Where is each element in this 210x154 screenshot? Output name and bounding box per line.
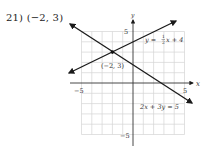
intersection-point: [111, 50, 115, 54]
y-axis-label: y: [130, 11, 135, 19]
y-tick-neg5: −5: [120, 132, 130, 140]
y-tick-pos5: 5: [124, 28, 128, 36]
svg-text:2: 2: [162, 40, 165, 45]
x-axis-label: x: [196, 80, 200, 88]
svg-text:x + 4: x + 4: [166, 36, 183, 44]
x-tick-neg5: −5: [74, 87, 84, 95]
equation-label-2: 2x + 3y = 5: [139, 103, 179, 111]
svg-text:y =: y =: [144, 36, 156, 44]
intersection-label: (−2, 3): [101, 62, 124, 70]
coordinate-graph: x y −5 5 5 −5 (−2, 3) y = 1 2 x + 4 2x +…: [0, 0, 210, 154]
svg-text:1: 1: [162, 34, 165, 39]
x-tick-pos5: 5: [183, 87, 187, 95]
equation-label-1: y = 1 2 x + 4: [144, 34, 183, 45]
